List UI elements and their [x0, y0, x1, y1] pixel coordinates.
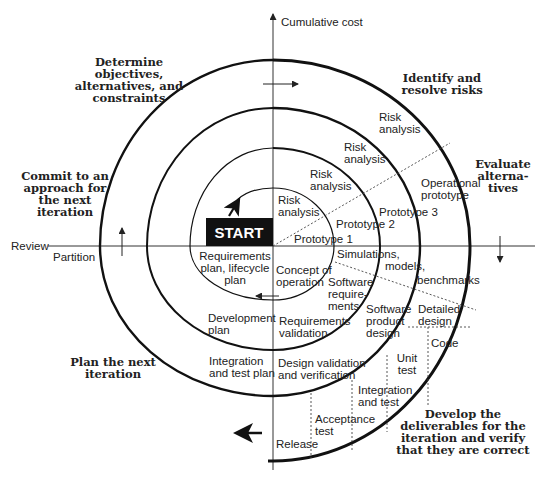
svg-text:Integration: Integration — [209, 355, 263, 367]
development-plan-label: Development plan — [208, 312, 277, 336]
svg-text:Integration: Integration — [358, 384, 412, 396]
svg-text:Risk: Risk — [379, 111, 402, 123]
svg-text:analysis: analysis — [344, 153, 386, 165]
svg-text:models,: models, — [385, 260, 425, 272]
unit-test-label: Unit test — [397, 352, 418, 376]
quadrant-label-commit-approach: Commit to an approach for the next itera… — [21, 169, 109, 219]
svg-text:Risk: Risk — [344, 141, 367, 153]
risk-analysis-2: Risk analysis — [310, 168, 352, 192]
svg-text:Software: Software — [366, 303, 411, 315]
svg-text:validation: validation — [279, 327, 328, 339]
quadrant-label-evaluate-alternatives: Evaluate alterna- tives — [475, 157, 531, 195]
svg-text:ments: ments — [328, 300, 360, 312]
quadrant-label-plan-next-iteration: Plan the next iteration — [70, 355, 156, 381]
svg-text:and test plan: and test plan — [209, 367, 275, 379]
operational-prototype-label: Operational prototype — [421, 177, 480, 201]
start-arrow-icon — [229, 201, 238, 216]
svg-text:plan: plan — [224, 274, 246, 286]
svg-text:operation: operation — [276, 276, 324, 288]
svg-text:Operational: Operational — [421, 177, 480, 189]
svg-text:plan, lifecycle: plan, lifecycle — [200, 262, 269, 274]
start-label: START — [215, 224, 264, 241]
risk-analysis-1: Risk analysis — [278, 194, 320, 218]
risk-analysis-3: Risk analysis — [344, 141, 386, 165]
svg-text:require-: require- — [328, 288, 368, 300]
svg-text:Requirements: Requirements — [279, 315, 351, 327]
svg-text:Unit: Unit — [397, 352, 418, 364]
svg-text:and verification: and verification — [278, 369, 355, 381]
concept-of-operation-label: Concept of operation — [276, 264, 332, 288]
prototype-3-label: Prototype 3 — [379, 206, 438, 218]
svg-text:prototype: prototype — [421, 189, 469, 201]
software-product-design-label: Software product design — [366, 303, 411, 339]
svg-text:test: test — [398, 364, 417, 376]
svg-text:Acceptance: Acceptance — [315, 413, 375, 425]
cumulative-cost-label: Cumulative cost — [281, 16, 364, 28]
integration-plan-label: Integration and test plan — [209, 355, 275, 379]
svg-text:resolve risks: resolve risks — [401, 83, 482, 97]
partition-label: Partition — [53, 251, 95, 263]
svg-text:design: design — [418, 315, 452, 327]
svg-text:plan: plan — [208, 324, 230, 336]
svg-text:iteration: iteration — [85, 367, 142, 381]
svg-text:analysis: analysis — [379, 123, 421, 135]
svg-text:Development: Development — [208, 312, 277, 324]
svg-text:Simulations,: Simulations, — [337, 248, 400, 260]
review-label: Review — [11, 240, 49, 252]
svg-text:Risk: Risk — [278, 194, 301, 206]
svg-text:Requirements: Requirements — [199, 250, 271, 262]
svg-text:product: product — [366, 315, 405, 327]
svg-text:constraints: constraints — [93, 91, 166, 105]
release-label: Release — [276, 438, 318, 450]
detailed-design-label: Detailed design — [418, 303, 460, 327]
svg-text:Software: Software — [328, 276, 373, 288]
svg-text:test: test — [315, 425, 334, 437]
quadrant-label-identify-risks: Identify and resolve risks — [401, 71, 482, 97]
svg-text:analysis: analysis — [310, 180, 352, 192]
design-validation-label: Design validation and verification — [278, 357, 366, 381]
svg-text:benchmarks: benchmarks — [417, 274, 480, 286]
svg-text:tives: tives — [488, 181, 518, 195]
svg-text:iteration: iteration — [37, 205, 94, 219]
svg-text:Risk: Risk — [310, 168, 333, 180]
svg-text:and test: and test — [358, 396, 400, 408]
svg-text:analysis: analysis — [278, 206, 320, 218]
svg-text:design: design — [366, 327, 400, 339]
quadrant-label-develop-deliverables: Develop the deliverables for the iterati… — [396, 407, 530, 457]
prototype-1-label: Prototype 1 — [294, 233, 353, 245]
svg-text:that they are correct: that they are correct — [396, 443, 530, 457]
svg-text:Concept of: Concept of — [276, 264, 332, 276]
prototype-2-label: Prototype 2 — [336, 218, 395, 230]
svg-text:Detailed: Detailed — [418, 303, 460, 315]
acceptance-test-label: Acceptance test — [315, 413, 375, 437]
svg-text:Design validation: Design validation — [278, 357, 366, 369]
code-label: Code — [431, 337, 459, 349]
spiral-model-diagram: START Cumulative cost Review Partition D… — [0, 0, 535, 482]
